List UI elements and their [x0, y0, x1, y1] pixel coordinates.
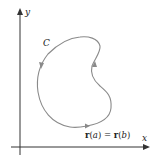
- start-end-point-label: r(a) = r(b): [85, 130, 130, 140]
- closed-curve-diagram: y x C r(a) = r(b): [0, 0, 159, 162]
- x-axis-label: x: [142, 133, 147, 143]
- curve-label: C: [43, 38, 50, 48]
- y-axis-label: y: [24, 7, 31, 17]
- x-axis-arrowhead-icon: [143, 144, 150, 150]
- y-axis-arrowhead-icon: [17, 8, 23, 15]
- curve-c: [37, 37, 111, 128]
- curve-start-point-marker-icon: [85, 124, 90, 129]
